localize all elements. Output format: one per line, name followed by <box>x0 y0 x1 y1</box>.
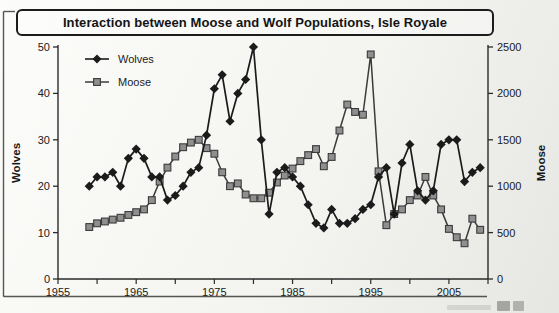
left-axis-ticks: 01020304050 <box>38 41 58 285</box>
left-axis-tick-label: 30 <box>38 134 50 146</box>
right-axis-tick-label: 2000 <box>497 87 521 99</box>
x-axis-ticks: 195519651975198519952005 <box>46 279 488 298</box>
right-axis-ticks: 05001000150020002500 <box>488 41 521 285</box>
right-axis-tick-label: 1000 <box>497 180 521 192</box>
right-axis-tick-label: 2500 <box>497 41 521 53</box>
left-axis-tick-label: 20 <box>38 180 50 192</box>
plot-svg: 0102030405005001000150020002500195519651… <box>0 0 559 313</box>
legend-item-wolves: Wolves <box>84 53 154 65</box>
left-axis-tick-label: 40 <box>38 87 50 99</box>
scan-artifact <box>447 305 491 310</box>
left-axis-tick-label: 10 <box>38 227 50 239</box>
right-axis-tick-label: 500 <box>497 227 515 239</box>
right-axis-tick-label: 0 <box>497 273 503 285</box>
legend-label-wolves: Wolves <box>118 53 154 65</box>
right-axis-tick-label: 1500 <box>497 134 521 146</box>
chart-title-box: Interaction between Moose and Wolf Popul… <box>16 9 494 36</box>
chart-title: Interaction between Moose and Wolf Popul… <box>63 15 447 30</box>
x-axis-tick-label: 1975 <box>202 286 226 298</box>
x-axis-tick-label: 1965 <box>124 286 148 298</box>
left-axis-tick-label: 50 <box>38 41 50 53</box>
wolves-marker-icon <box>84 53 110 65</box>
chart-legend: Wolves Moose <box>84 53 154 88</box>
moose-marker-icon <box>84 76 110 88</box>
x-axis-tick-label: 1995 <box>358 286 382 298</box>
scan-artifact <box>497 301 510 311</box>
legend-label-moose: Moose <box>118 76 151 88</box>
figure-border <box>4 12 488 297</box>
x-axis-tick-label: 2005 <box>437 286 461 298</box>
chart-figure: 0102030405005001000150020002500195519651… <box>0 0 559 313</box>
x-axis-tick-label: 1985 <box>280 286 304 298</box>
scan-artifact <box>513 301 524 311</box>
left-axis-tick-label: 0 <box>44 273 50 285</box>
legend-item-moose: Moose <box>84 76 154 88</box>
x-axis-tick-label: 1955 <box>46 286 70 298</box>
